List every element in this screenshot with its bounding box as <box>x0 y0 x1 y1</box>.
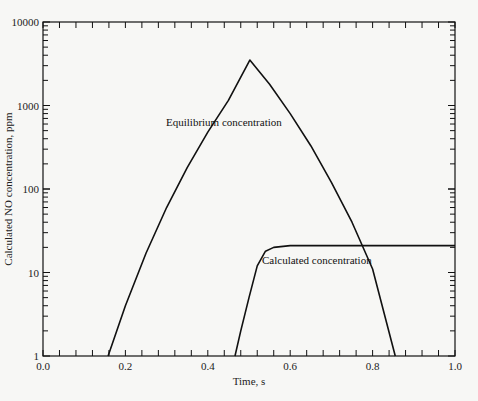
series-lines <box>108 60 455 356</box>
plot-frame <box>43 22 455 356</box>
y-tick-label: 10000 <box>12 16 40 28</box>
y-tick-label: 1000 <box>17 100 40 112</box>
x-tick-label: 0.4 <box>201 360 215 372</box>
x-tick-label: 1.0 <box>448 360 462 372</box>
annotation-equilibrium: Equilibrium concentration <box>166 116 282 128</box>
y-axis-title: Calculated NO concentration, ppm <box>2 112 14 266</box>
y-tick-labels: 110100100010000 <box>12 16 40 362</box>
x-tick-label: 0.2 <box>119 360 133 372</box>
x-tick-label: 0.8 <box>366 360 380 372</box>
equilibrium-concentration-line <box>108 60 395 356</box>
annotation-calculated: Calculated concentration <box>262 254 372 266</box>
y-tick-label: 10 <box>28 267 40 279</box>
axis-ticks <box>43 22 455 356</box>
y-tick-label: 100 <box>23 183 40 195</box>
x-tick-labels: 0.00.20.40.60.81.0 <box>36 360 462 372</box>
x-axis-title: Time, s <box>233 375 266 387</box>
chart: 110100100010000 0.00.20.40.60.81.0 Time,… <box>0 0 478 401</box>
x-tick-label: 0.0 <box>36 360 50 372</box>
x-tick-label: 0.6 <box>283 360 297 372</box>
